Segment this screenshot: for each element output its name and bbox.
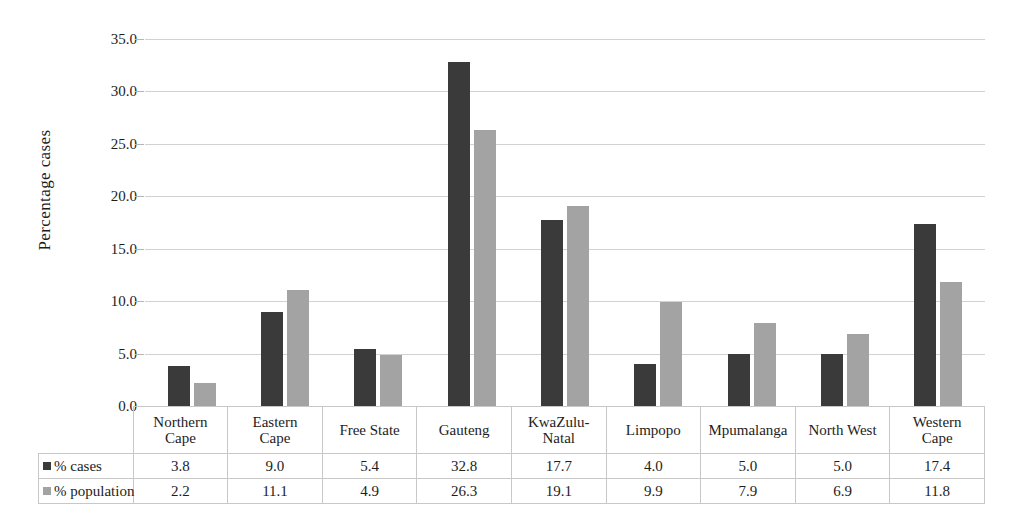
bar-group <box>145 39 238 406</box>
bar-population <box>194 383 216 406</box>
table-cell: 5.0 <box>701 454 796 479</box>
table-cell: 4.0 <box>606 454 701 479</box>
table-cell: 32.8 <box>417 454 512 479</box>
bar-group <box>892 39 985 406</box>
plot-area: 35.030.025.020.015.010.05.00.0 <box>145 39 985 406</box>
bar-cases <box>354 349 376 406</box>
bar-population <box>940 282 962 406</box>
y-axis-tick-mark <box>135 249 144 250</box>
chart-figure: Percentage cases 35.030.025.020.015.010.… <box>0 0 1019 529</box>
bar-population <box>660 302 682 406</box>
table-cell: 11.1 <box>228 479 323 504</box>
bar-population <box>380 355 402 406</box>
y-axis-tick-label: 20.0 <box>79 189 137 204</box>
bar-group <box>425 39 518 406</box>
y-axis-tick-mark <box>135 354 144 355</box>
y-axis-tick-mark <box>135 196 144 197</box>
y-axis-tick-mark <box>135 91 144 92</box>
table-cell: 9.0 <box>228 454 323 479</box>
column-header-kwazulu-natal: KwaZulu-Natal <box>511 407 606 454</box>
bar-population <box>754 323 776 406</box>
bar-group <box>798 39 891 406</box>
table-cell: 5.4 <box>322 454 417 479</box>
column-header-mpumalanga: Mpumalanga <box>701 407 796 454</box>
legend-item-cases: % cases <box>39 454 134 479</box>
table-cell: 7.9 <box>701 479 796 504</box>
bar-group <box>705 39 798 406</box>
table-cell: 11.8 <box>890 479 985 504</box>
bar-cases <box>261 312 283 406</box>
y-axis-tick-label: 10.0 <box>79 294 137 309</box>
column-header-western-cape: WesternCape <box>890 407 985 454</box>
y-axis-tick-mark <box>135 39 144 40</box>
table-row: % cases3.89.05.432.817.74.05.05.017.4 <box>39 454 985 479</box>
table-cell: 3.8 <box>133 454 228 479</box>
table-corner-cell <box>39 407 134 454</box>
table-cell: 2.2 <box>133 479 228 504</box>
legend-item-population: % population <box>39 479 134 504</box>
table-cell: 19.1 <box>511 479 606 504</box>
table-cell: 9.9 <box>606 479 701 504</box>
column-header-limpopo: Limpopo <box>606 407 701 454</box>
bar-cases <box>634 364 656 406</box>
legend-swatch-icon <box>43 462 51 470</box>
table-header-row: NorthernCapeEasternCapeFree StateGauteng… <box>39 407 985 454</box>
bar-cases <box>914 224 936 406</box>
bar-cases <box>448 62 470 406</box>
y-axis-tick-label: 35.0 <box>79 32 137 47</box>
legend-label: % cases <box>54 458 102 474</box>
column-header-north-west: North West <box>795 407 890 454</box>
bar-cases <box>541 220 563 406</box>
y-axis-tick-mark <box>135 301 144 302</box>
table-cell: 26.3 <box>417 479 512 504</box>
y-axis-tick-mark <box>135 144 144 145</box>
bar-cases <box>821 354 843 406</box>
table-cell: 5.0 <box>795 454 890 479</box>
bar-population <box>847 334 869 406</box>
table-cell: 4.9 <box>322 479 417 504</box>
bar-population <box>287 290 309 406</box>
column-header-gauteng: Gauteng <box>417 407 512 454</box>
bar-cases <box>728 354 750 406</box>
bar-group <box>518 39 611 406</box>
bar-group <box>612 39 705 406</box>
y-axis-tick-label: 30.0 <box>79 84 137 99</box>
column-header-northern-cape: NorthernCape <box>133 407 228 454</box>
table-cell: 17.4 <box>890 454 985 479</box>
data-table: NorthernCapeEasternCapeFree StateGauteng… <box>38 406 985 504</box>
table-row: % population2.211.14.926.319.19.97.96.91… <box>39 479 985 504</box>
table-cell: 6.9 <box>795 479 890 504</box>
y-axis-tick-label: 25.0 <box>79 137 137 152</box>
column-header-free-state: Free State <box>322 407 417 454</box>
table-cell: 17.7 <box>511 454 606 479</box>
bar-group <box>238 39 331 406</box>
column-header-eastern-cape: EasternCape <box>228 407 323 454</box>
y-axis-title: Percentage cases <box>35 50 55 330</box>
y-axis-tick-label: 15.0 <box>79 242 137 257</box>
bar-population <box>567 206 589 406</box>
legend-label: % population <box>54 483 134 499</box>
bar-group <box>332 39 425 406</box>
bar-population <box>474 130 496 406</box>
bar-cases <box>168 366 190 406</box>
y-axis-tick-label: 5.0 <box>79 347 137 362</box>
legend-swatch-icon <box>43 487 51 495</box>
